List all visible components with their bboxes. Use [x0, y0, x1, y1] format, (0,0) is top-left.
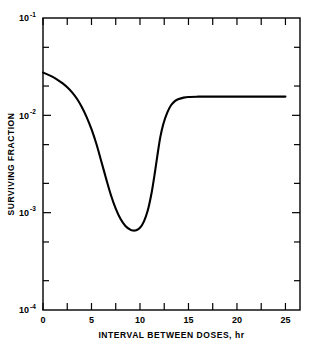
- svg-text:-3: -3: [30, 205, 36, 212]
- x-tick-label-20: 20: [232, 315, 242, 325]
- y-axis-title: SURVIVING FRACTION: [6, 113, 16, 216]
- x-tick-label-5: 5: [89, 315, 94, 325]
- svg-text:10: 10: [19, 208, 29, 218]
- svg-text:-2: -2: [30, 108, 36, 115]
- svg-text:10: 10: [19, 111, 29, 121]
- x-tick-label-25: 25: [280, 315, 290, 325]
- chart-background: [0, 0, 323, 348]
- surviving-fraction-chart: 0510152025 10-410-310-210-1 INTERVAL BET…: [0, 0, 323, 348]
- svg-text:10: 10: [19, 13, 29, 23]
- x-tick-label-15: 15: [183, 315, 193, 325]
- x-axis-title: INTERVAL BETWEEN DOSES, hr: [98, 330, 244, 340]
- svg-text:-4: -4: [30, 303, 36, 310]
- x-tick-label-10: 10: [135, 315, 145, 325]
- x-tick-label-0: 0: [40, 315, 45, 325]
- svg-text:10: 10: [19, 305, 29, 315]
- figure-container: 0510152025 10-410-310-210-1 INTERVAL BET…: [0, 0, 323, 348]
- svg-text:-1: -1: [30, 11, 36, 18]
